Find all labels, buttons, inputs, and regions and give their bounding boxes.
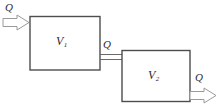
inlet-arrow-icon (3, 15, 29, 30)
outlet-arrow-icon (190, 88, 216, 103)
vessel-v1-symbol: V (56, 34, 63, 48)
vessel-v2-symbol: V (148, 68, 155, 82)
interconnect-flow-label: Q (103, 39, 111, 50)
outlet-flow-label: Q (195, 72, 203, 83)
inlet-flow-label: Q (5, 2, 13, 13)
diagram-canvas (0, 0, 218, 111)
vessel-v2-subscript: 2 (156, 75, 160, 83)
vessel-v1-subscript: 1 (64, 41, 68, 49)
flow-diagram: Q Q Q V1 V2 (0, 0, 218, 111)
vessel-v2-label: V2 (148, 69, 159, 81)
vessel-v1-label: V1 (56, 35, 67, 47)
